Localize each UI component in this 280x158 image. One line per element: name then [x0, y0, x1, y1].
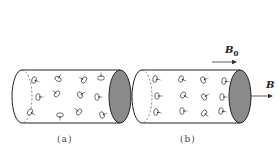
- dipoles-b: [152, 74, 231, 120]
- magnetization-diagram: [0, 0, 280, 158]
- external-field-label: B0: [225, 44, 238, 58]
- dipoles-a: [26, 71, 109, 122]
- caption-b: (b): [180, 134, 196, 144]
- resultant-field-label: B: [266, 79, 274, 90]
- cylinder-b: [132, 70, 251, 123]
- end-cap-b: [229, 70, 251, 123]
- end-cap-a: [109, 70, 131, 123]
- caption-a: (a): [57, 134, 72, 144]
